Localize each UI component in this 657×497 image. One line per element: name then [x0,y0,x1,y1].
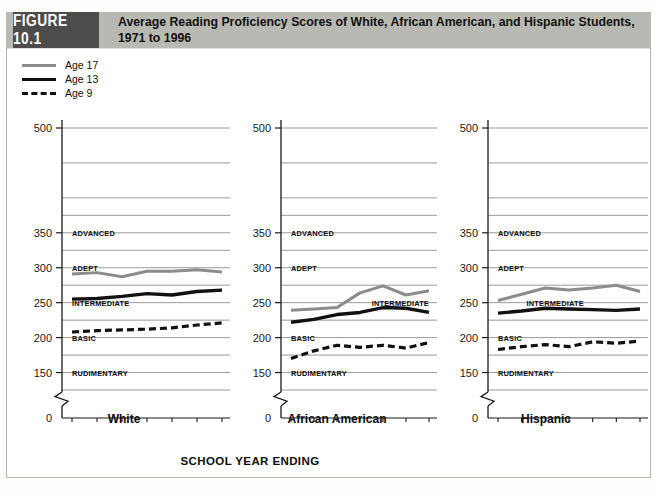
y-tick-label: 350 [460,227,478,239]
level-label-basic: BASIC [72,334,96,343]
panel-caption: White [14,412,234,426]
legend-item-age17: Age 17 [22,58,98,72]
figure-title: Average Reading Proficiency Scores of Wh… [106,12,651,48]
y-tick-label: 500 [460,122,478,134]
y-tick-label: 350 [253,227,271,239]
y-tick-label: 300 [253,262,271,274]
panel-caption: African American [233,412,441,426]
y-tick-label: 200 [34,332,52,344]
panel-caption: Hispanic [440,412,652,426]
plot-area-hispanic: 5003503002502001500ADVANCEDADEPTINTERMED… [440,112,652,422]
level-label-basic: BASIC [498,334,522,343]
level-label-basic: BASIC [291,334,315,343]
series-line-age-9 [291,342,429,358]
figure-root: FIGURE 10.1 Average Reading Proficiency … [0,0,657,497]
legend-swatch-age9-icon [22,92,56,95]
y-tick-label: 300 [460,262,478,274]
level-label-intermediate: INTERMEDIATE [372,299,429,308]
figure-header: FIGURE 10.1 Average Reading Proficiency … [6,12,651,48]
series-line-age-13 [498,308,640,313]
y-tick-label: 350 [34,227,52,239]
y-tick-label: 250 [253,297,271,309]
panel-african-american: 5003503002502001500ADVANCEDADEPTINTERMED… [233,112,441,422]
legend-label-age17: Age 17 [65,59,98,71]
y-tick-label: 150 [460,367,478,379]
chart-panels: 5003503002502001500ADVANCEDADEPTINTERMED… [0,112,657,422]
y-tick-label: 500 [253,122,271,134]
level-label-adept: ADEPT [498,264,524,273]
y-tick-label: 200 [460,332,478,344]
legend-swatch-age17-icon [22,64,56,67]
level-label-rudimentary: RUDIMENTARY [72,369,128,378]
level-label-advanced: ADVANCED [498,229,541,238]
y-tick-label: 200 [253,332,271,344]
panel-white: 5003503002502001500ADVANCEDADEPTINTERMED… [14,112,234,422]
level-label-adept: ADEPT [291,264,317,273]
legend-label-age9: Age 9 [65,87,92,99]
level-label-advanced: ADVANCED [72,229,115,238]
figure-number-badge: FIGURE 10.1 [13,12,99,48]
legend-item-age9: Age 9 [22,86,98,100]
chart-legend: Age 17 Age 13 Age 9 [22,58,98,100]
series-line-age-13 [72,290,222,299]
x-axis-title: SCHOOL YEAR ENDING [0,455,500,467]
level-label-advanced: ADVANCED [291,229,334,238]
level-label-rudimentary: RUDIMENTARY [291,369,347,378]
plot-area-white: 5003503002502001500ADVANCEDADEPTINTERMED… [14,112,234,422]
y-tick-label: 250 [460,297,478,309]
y-tick-label: 150 [34,367,52,379]
y-tick-label: 300 [34,262,52,274]
level-label-rudimentary: RUDIMENTARY [498,369,554,378]
plot-area-african-american: 5003503002502001500ADVANCEDADEPTINTERMED… [233,112,441,422]
panel-hispanic: 5003503002502001500ADVANCEDADEPTINTERMED… [440,112,652,422]
legend-item-age13: Age 13 [22,72,98,86]
level-label-intermediate: INTERMEDIATE [527,299,584,308]
series-line-age-9 [72,323,222,332]
legend-swatch-age13-icon [22,78,56,81]
y-tick-label: 150 [253,367,271,379]
y-tick-label: 500 [34,122,52,134]
y-tick-label: 250 [34,297,52,309]
legend-label-age13: Age 13 [65,73,98,85]
